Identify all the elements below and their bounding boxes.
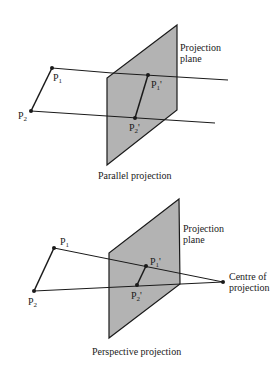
label-p2: P2 — [18, 110, 27, 125]
centre-of-projection-label: Centre ofprojection — [229, 271, 270, 293]
point-p1-prime — [146, 73, 150, 77]
caption-parallel: Parallel projection — [98, 170, 172, 181]
label-p1-prime: P1' — [151, 79, 162, 94]
label-p2-prime: P2' — [129, 122, 140, 137]
caption-perspective: Perspective projection — [92, 346, 181, 357]
point-p2 — [32, 289, 36, 293]
plane-label: Projectionplane — [180, 42, 221, 64]
label-p1-prime: P1' — [150, 256, 161, 271]
point-p2 — [29, 109, 33, 113]
point-p1 — [50, 66, 54, 70]
label-p2-prime: P2' — [131, 290, 142, 305]
projection-diagrams-canvas — [0, 0, 271, 375]
point-p2-prime — [133, 116, 137, 120]
label-p1: P1 — [53, 72, 62, 87]
perspective-projection-diagram — [32, 199, 225, 338]
centre-of-projection-point — [221, 280, 225, 284]
label-p2: P2 — [28, 296, 37, 311]
point-p1-prime — [144, 264, 148, 268]
point-p1 — [52, 246, 56, 250]
point-p2-prime — [135, 283, 139, 287]
plane-label: Projectionplane — [183, 223, 224, 245]
label-p1: P1 — [60, 236, 69, 251]
